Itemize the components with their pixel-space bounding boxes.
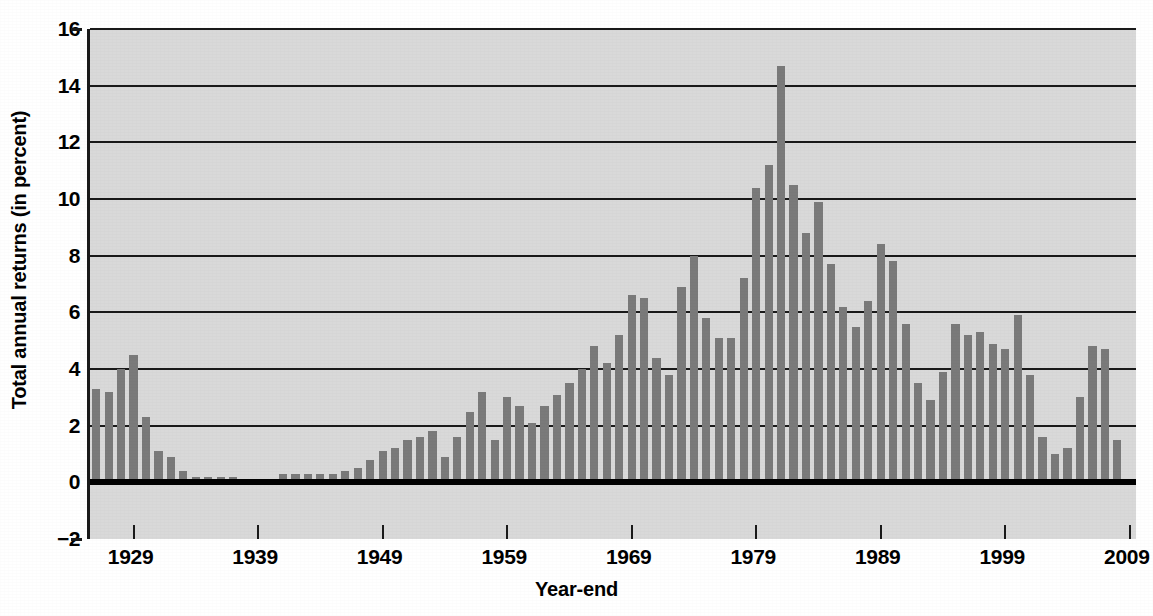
bar-1961 bbox=[528, 423, 536, 483]
bar-1994 bbox=[939, 372, 947, 483]
bar-1987 bbox=[852, 327, 860, 483]
bar-1981 bbox=[777, 66, 785, 483]
bar-1960 bbox=[515, 406, 523, 483]
bar-1966 bbox=[590, 346, 598, 482]
bar-1958 bbox=[491, 440, 499, 483]
bar-2006 bbox=[1088, 346, 1096, 482]
x-tick-mark-1959 bbox=[506, 525, 508, 539]
bar-2004 bbox=[1063, 448, 1071, 482]
bar-1997 bbox=[976, 332, 984, 482]
gridline-16 bbox=[90, 28, 1136, 30]
bar-1955 bbox=[453, 437, 461, 482]
bar-1979 bbox=[752, 188, 760, 483]
bar-1953 bbox=[428, 431, 436, 482]
bar-1993 bbox=[926, 400, 934, 482]
y-tick-label-2: 2 bbox=[20, 414, 80, 438]
bar-1996 bbox=[964, 335, 972, 482]
bar-1926 bbox=[92, 389, 100, 483]
bar-2003 bbox=[1051, 454, 1059, 482]
x-tick-label-1959: 1959 bbox=[481, 545, 527, 569]
y-tick-label-14: 14 bbox=[20, 74, 80, 98]
y-tick-label-6: 6 bbox=[20, 300, 80, 324]
y-tick-label-12: 12 bbox=[20, 130, 80, 154]
bar-1951 bbox=[403, 440, 411, 483]
y-axis-tick-labels: −20246810121416 bbox=[8, 0, 80, 616]
x-tick-label-2009: 2009 bbox=[1104, 545, 1150, 569]
bar-2007 bbox=[1101, 349, 1109, 482]
bar-1968 bbox=[615, 335, 623, 482]
bar-2000 bbox=[1014, 315, 1022, 482]
x-tick-mark-1989 bbox=[880, 525, 882, 539]
chart-figure: Total annual returns (in percent) −20246… bbox=[0, 0, 1153, 616]
bar-1984 bbox=[814, 202, 822, 483]
bar-2008 bbox=[1113, 440, 1121, 483]
gridline-10 bbox=[90, 198, 1136, 200]
bar-1999 bbox=[1001, 349, 1009, 482]
x-tick-mark-2009 bbox=[1129, 525, 1131, 539]
bar-1976 bbox=[715, 338, 723, 483]
bar-1998 bbox=[989, 344, 997, 483]
bar-1963 bbox=[553, 395, 561, 483]
bar-1990 bbox=[889, 261, 897, 482]
bar-1971 bbox=[652, 358, 660, 483]
bar-1975 bbox=[702, 318, 710, 482]
bar-1957 bbox=[478, 392, 486, 483]
bar-2002 bbox=[1038, 437, 1046, 482]
x-tick-mark-1969 bbox=[631, 525, 633, 539]
y-tick-label-10: 10 bbox=[20, 187, 80, 211]
bar-1970 bbox=[640, 298, 648, 482]
x-tick-label-1949: 1949 bbox=[357, 545, 403, 569]
x-tick-mark-1929 bbox=[133, 525, 135, 539]
bar-1995 bbox=[951, 324, 959, 483]
x-tick-mark-1949 bbox=[382, 525, 384, 539]
bar-1985 bbox=[827, 264, 835, 482]
bar-1964 bbox=[565, 383, 573, 482]
x-tick-label-1969: 1969 bbox=[606, 545, 652, 569]
bar-1980 bbox=[765, 165, 773, 482]
bar-1967 bbox=[603, 363, 611, 482]
bar-1986 bbox=[839, 307, 847, 483]
bar-1956 bbox=[466, 412, 474, 483]
bar-1927 bbox=[105, 392, 113, 483]
gridline-14 bbox=[90, 85, 1136, 87]
y-tick-label-8: 8 bbox=[20, 244, 80, 268]
bar-1977 bbox=[727, 338, 735, 483]
bar-1989 bbox=[877, 244, 885, 482]
bar-1983 bbox=[802, 233, 810, 482]
bar-1974 bbox=[690, 256, 698, 483]
x-tick-mark-1979 bbox=[755, 525, 757, 539]
bar-1991 bbox=[902, 324, 910, 483]
bar-1928 bbox=[117, 369, 125, 482]
y-tick-label-4: 4 bbox=[20, 357, 80, 381]
x-tick-mark-1939 bbox=[257, 525, 259, 539]
bar-1965 bbox=[578, 369, 586, 482]
bar-1950 bbox=[391, 448, 399, 482]
x-axis-title: Year-end bbox=[0, 578, 1153, 601]
gridline-0 bbox=[90, 479, 1136, 485]
bar-2005 bbox=[1076, 397, 1084, 482]
x-tick-label-1939: 1939 bbox=[232, 545, 278, 569]
bar-1992 bbox=[914, 383, 922, 482]
x-tick-label-1929: 1929 bbox=[108, 545, 154, 569]
bar-1962 bbox=[540, 406, 548, 483]
bar-1931 bbox=[154, 451, 162, 482]
bar-1929 bbox=[129, 355, 137, 483]
bar-1949 bbox=[379, 451, 387, 482]
y-tick-label-0: 0 bbox=[20, 470, 80, 494]
gridline-6 bbox=[90, 311, 1136, 313]
bar-1973 bbox=[677, 287, 685, 483]
x-tick-label-1999: 1999 bbox=[979, 545, 1025, 569]
bar-1982 bbox=[789, 185, 797, 483]
x-tick-label-1979: 1979 bbox=[730, 545, 776, 569]
x-tick-label-1989: 1989 bbox=[855, 545, 901, 569]
bar-1988 bbox=[864, 301, 872, 482]
bar-2001 bbox=[1026, 375, 1034, 483]
bar-1969 bbox=[628, 295, 636, 482]
x-tick-mark-1999 bbox=[1004, 525, 1006, 539]
plot-area bbox=[87, 29, 1136, 539]
bar-1959 bbox=[503, 397, 511, 482]
bar-1978 bbox=[740, 278, 748, 482]
bar-1930 bbox=[142, 417, 150, 482]
y-tick-mark--2 bbox=[71, 538, 82, 541]
y-tick-mark-16 bbox=[71, 28, 82, 31]
